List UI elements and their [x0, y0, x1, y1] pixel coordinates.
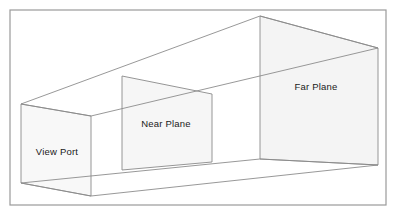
frustum-svg-canvas: View Port Near Plane Far Plane: [0, 0, 397, 217]
far-plane-label: Far Plane: [295, 81, 338, 92]
near-plane-label: Near Plane: [141, 118, 191, 129]
edge-bottom-right-rail: [91, 165, 378, 196]
view-port-label: View Port: [36, 146, 78, 157]
view-frustum-diagram: View Port Near Plane Far Plane: [0, 0, 397, 217]
